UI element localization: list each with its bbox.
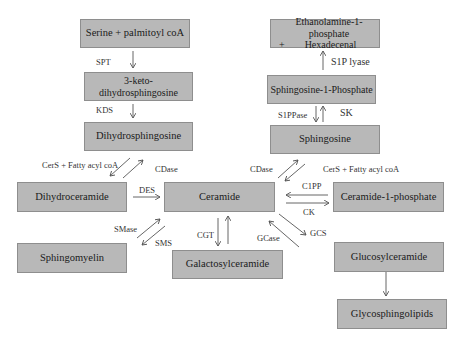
node-serine-palmitoyl-coa: Serine + palmitoyl coA [80, 19, 190, 48]
node-label: Dihydroceramide [35, 191, 108, 203]
node-3-keto-dihydrosphingosine: 3-keto-dihydrosphingosine [84, 72, 193, 101]
enzyme-cers-left: CerS + Fatty acyl coA [42, 160, 118, 170]
node-galactosylceramide: Galactosylceramide [172, 250, 283, 279]
node-ethanolamine-hexadecenal: Ethanolamine-1-phosphate + Hexadecenal [270, 19, 380, 48]
enzyme-cgt: CGT [197, 230, 214, 240]
arrow-cdase-right [278, 160, 298, 178]
enzyme-sk: SK [340, 107, 353, 118]
enzyme-smase: SMase [114, 224, 137, 234]
enzyme-s1p-lyase: S1P lyase [331, 56, 370, 67]
node-glycosphingolipids: Glycosphingolipids [337, 299, 447, 329]
node-sphingomyelin: Sphingomyelin [17, 243, 127, 273]
node-glucosylceramide: Glucosylceramide [334, 242, 444, 272]
node-ceramide: Ceramide [164, 182, 275, 212]
enzyme-c1pp: C1PP [302, 181, 321, 191]
node-label: Dihydrosphingosine [96, 130, 181, 142]
enzyme-s1ppase: S1PPase [278, 110, 307, 120]
arrow-smase [137, 219, 160, 238]
enzyme-des: DES [139, 185, 155, 195]
arrow-cdase-left [123, 160, 143, 178]
node-label: Sphingomyelin [40, 252, 104, 264]
enzyme-cers-right: CerS + Fatty acyl coA [323, 164, 399, 174]
enzyme-ck: CK [303, 207, 315, 217]
node-label: Ceramide [199, 191, 240, 203]
node-label: Sphingosine [299, 133, 351, 145]
arrow-cers-right [285, 164, 305, 181]
node-label: 3-keto-dihydrosphingosine [85, 75, 192, 98]
enzyme-kds: KDS [96, 105, 113, 115]
node-sphingosine-1-phosphate: Sphingosine-1-Phosphate [267, 75, 376, 104]
node-dihydroceramide: Dihydroceramide [17, 182, 127, 212]
node-label: Serine + palmitoyl coA [86, 27, 184, 39]
node-ceramide-1-phosphate: Ceramide-1-phosphate [333, 182, 444, 212]
node-label: Glycosphingolipids [351, 308, 433, 320]
enzyme-gcase: GCase [257, 233, 280, 243]
enzyme-gcs: GCS [310, 228, 327, 238]
node-label-line2: + Hexadecenal [279, 39, 356, 51]
arrow-gcs [279, 214, 306, 235]
node-label: Ceramide-1-phosphate [341, 191, 437, 203]
node-label-line1: Ethanolamine-1-phosphate [279, 16, 379, 39]
enzyme-cdase-right: CDase [250, 164, 273, 174]
node-label: Glucosylceramide [351, 251, 427, 263]
node-label: Galactosylceramide [186, 258, 269, 270]
enzyme-sms: SMS [155, 238, 172, 248]
node-dihydrosphingosine: Dihydrosphingosine [84, 122, 193, 151]
enzyme-cdase-left: CDase [155, 164, 178, 174]
node-sphingosine: Sphingosine [270, 125, 380, 154]
enzyme-spt: SPT [96, 57, 111, 67]
node-label: Sphingosine-1-Phosphate [270, 84, 372, 96]
